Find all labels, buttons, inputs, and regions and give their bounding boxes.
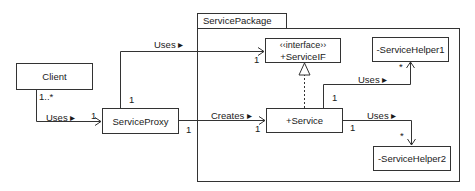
class-service-proxy[interactable]: ServiceProxy: [102, 108, 179, 134]
class-name: ServiceProxy: [113, 116, 169, 127]
class-service-helper2[interactable]: -ServiceHelper2: [373, 146, 451, 171]
label-service-helper1: Uses ▸: [358, 75, 387, 85]
class-name: +ServiceIF: [280, 51, 326, 62]
class-service[interactable]: +Service: [266, 108, 343, 133]
mult-client-source: 1..*: [39, 92, 53, 102]
mult-proxy-creates-source: 1: [186, 125, 191, 135]
label-proxy-service: Creates ▸: [211, 111, 252, 121]
stereotype: ‹‹interface››: [280, 40, 327, 51]
mult-service-h2-source: 1: [350, 123, 355, 133]
label-proxy-interface: Uses ▸: [154, 40, 183, 50]
mult-interface-target: 1: [254, 55, 259, 65]
class-name: -ServiceHelper2: [378, 153, 446, 164]
package-name: ServicePackage: [203, 16, 272, 26]
class-name: +Service: [286, 115, 323, 126]
class-service-helper1[interactable]: -ServiceHelper1: [372, 37, 449, 62]
class-name: Client: [42, 71, 66, 82]
label-client-proxy: Uses ▸: [46, 113, 75, 123]
class-name: -ServiceHelper1: [376, 44, 444, 55]
mult-proxy-target: 1: [91, 111, 96, 121]
mult-helper2-target: *: [400, 131, 404, 141]
mult-service-target: 1: [255, 124, 260, 134]
mult-helper1-target: *: [399, 62, 403, 72]
class-service-interface[interactable]: ‹‹interface›› +ServiceIF: [265, 38, 341, 63]
class-client[interactable]: Client: [16, 63, 93, 90]
label-service-helper2: Uses ▸: [367, 111, 396, 121]
mult-proxy-source: 1: [129, 95, 134, 105]
mult-service-h1-source: 1: [332, 93, 337, 103]
